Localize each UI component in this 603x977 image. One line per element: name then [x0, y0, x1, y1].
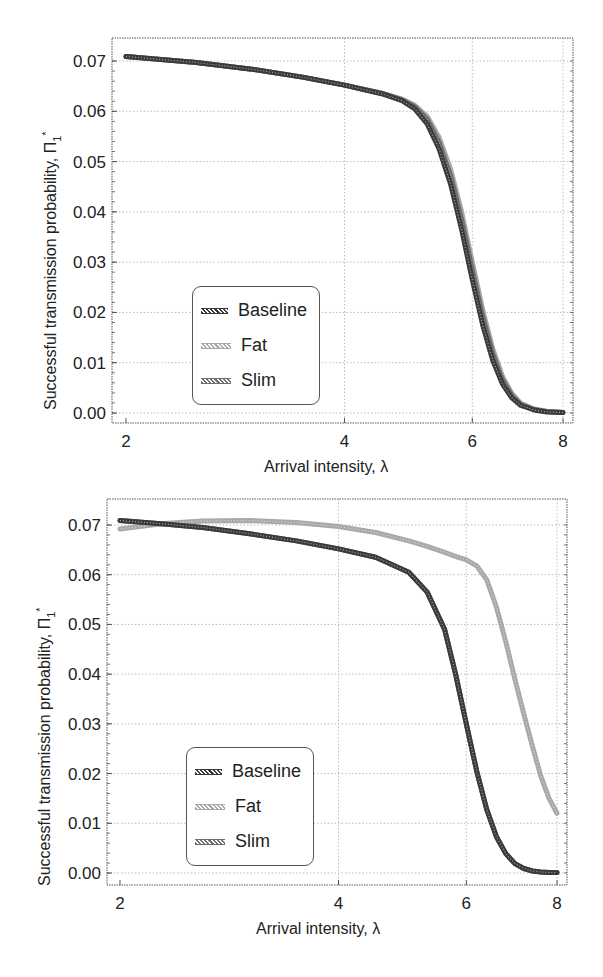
y-tick-label: 0.02: [68, 765, 101, 784]
x-tick-label: 2: [121, 432, 130, 451]
chart-bottom: 0.000.010.020.030.040.050.060.072468 Suc…: [0, 488, 603, 977]
x-tick-label: 2: [115, 894, 124, 913]
baseline-line-swatch-icon: [201, 308, 228, 314]
y-tick-label: 0.05: [68, 615, 101, 634]
legend-item-fat: Fat: [195, 789, 301, 824]
legend-label: Baseline: [232, 761, 301, 782]
y-tick-label: 0.02: [73, 303, 106, 322]
slim-line-swatch-icon: [201, 378, 231, 384]
legend-item-baseline: Baseline: [195, 754, 301, 789]
slim-line-swatch-icon: [195, 839, 225, 845]
y-tick-label: 0.01: [68, 814, 101, 833]
y-axis-label-superscript: *: [40, 131, 52, 135]
plot-frame: [107, 499, 567, 885]
y-tick-label: 0.07: [68, 516, 101, 535]
x-axis-label-bottom: Arrival intensity, λ: [256, 920, 380, 938]
y-axis-label-bottom: Successful transmission probability, Π1*: [34, 607, 57, 886]
y-tick-label: 0.07: [73, 52, 106, 71]
plot-frame: [112, 38, 573, 423]
y-tick-label: 0.06: [73, 102, 106, 121]
fat-line-swatch-icon: [195, 804, 225, 810]
chart-top: 0.000.010.020.030.040.050.060.072468 Suc…: [0, 0, 603, 488]
legend-label: Baseline: [238, 300, 307, 321]
y-axis-label-text: Successful transmission probability, Π: [36, 618, 53, 886]
x-tick-label: 4: [340, 432, 349, 451]
legend-item-slim: Slim: [201, 363, 307, 398]
y-axis-label-superscript: *: [34, 607, 46, 611]
x-tick-label: 6: [468, 432, 477, 451]
y-axis-label-top: Successful transmission probability, Π1*: [40, 131, 63, 410]
legend-item-fat: Fat: [201, 328, 307, 363]
y-tick-label: 0.00: [68, 864, 101, 883]
y-tick-label: 0.03: [68, 715, 101, 734]
y-tick-label: 0.03: [73, 253, 106, 272]
y-tick-label: 0.00: [73, 404, 106, 423]
fat-line-swatch-icon: [201, 343, 231, 349]
x-tick-label: 4: [334, 894, 343, 913]
legend-label: Fat: [241, 335, 267, 356]
legend-item-slim: Slim: [195, 824, 301, 859]
y-axis-label-subscript: 1: [51, 136, 63, 142]
y-tick-label: 0.05: [73, 153, 106, 172]
y-tick-label: 0.04: [73, 203, 106, 222]
legend-bottom: Baseline Fat Slim: [186, 747, 314, 866]
plot-area-bottom: 0.000.010.020.030.040.050.060.072468: [0, 488, 603, 977]
legend-label: Fat: [235, 796, 261, 817]
x-tick-label: 8: [552, 894, 561, 913]
plot-area-top: 0.000.010.020.030.040.050.060.072468: [0, 0, 603, 488]
y-axis-label-text: Successful transmission probability, Π: [42, 142, 59, 410]
baseline-line-swatch-icon: [195, 769, 222, 775]
legend-item-baseline: Baseline: [201, 293, 307, 328]
x-axis-label-top: Arrival intensity, λ: [264, 458, 388, 476]
legend-top: Baseline Fat Slim: [192, 286, 320, 405]
x-tick-label: 6: [462, 894, 471, 913]
y-tick-label: 0.06: [68, 566, 101, 585]
x-tick-label: 8: [558, 432, 567, 451]
legend-label: Slim: [241, 370, 276, 391]
y-axis-label-subscript: 1: [45, 612, 57, 618]
y-tick-label: 0.04: [68, 665, 101, 684]
y-tick-label: 0.01: [73, 354, 106, 373]
legend-label: Slim: [235, 831, 270, 852]
